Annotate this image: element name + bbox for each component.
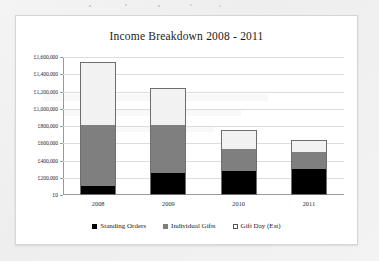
scan-noise	[60, 2, 270, 11]
bar-segment[interactable]	[150, 173, 186, 195]
legend-swatch-icon	[92, 224, 97, 229]
bar-column[interactable]	[150, 88, 186, 195]
bar-segment[interactable]	[291, 152, 327, 169]
legend-label: Gift Day (Est)	[241, 222, 281, 230]
bar-segment[interactable]	[80, 186, 116, 195]
chart-title: Income Breakdown 2008 - 2011	[16, 30, 357, 42]
legend-swatch-icon	[233, 224, 238, 229]
chart-panel: Income Breakdown 2008 - 2011 £0£200,000£…	[15, 15, 358, 245]
bar-column[interactable]	[221, 130, 257, 195]
bar-segment[interactable]	[221, 130, 257, 149]
y-axis-label: £1,200,000	[34, 89, 58, 95]
x-axis-label: 2008	[92, 200, 105, 207]
y-axis-tick	[60, 92, 63, 93]
y-axis-tick	[60, 195, 63, 196]
bar-segment[interactable]	[150, 125, 186, 173]
y-axis-tick	[60, 143, 63, 144]
legend-swatch-icon	[163, 224, 168, 229]
y-axis-label: £1,400,000	[34, 71, 58, 77]
legend-item[interactable]: Gift Day (Est)	[233, 222, 281, 230]
bar-segment[interactable]	[150, 88, 186, 125]
bar-segment[interactable]	[80, 125, 116, 186]
bar-segment[interactable]	[291, 169, 327, 195]
y-axis-label: £800,000	[38, 123, 58, 129]
y-axis-tick	[60, 74, 63, 75]
gridline	[63, 57, 344, 58]
bar-column[interactable]	[291, 140, 327, 195]
y-axis-tick	[60, 178, 63, 179]
y-axis-label: £1,000,000	[34, 106, 58, 112]
y-axis-label: £0	[53, 192, 58, 198]
y-axis-label: £400,000	[38, 158, 58, 164]
x-axis-label: 2011	[303, 200, 315, 207]
y-axis-tick	[60, 161, 63, 162]
y-axis-label: £600,000	[38, 140, 58, 146]
y-axis-tick	[60, 109, 63, 110]
chart-legend: Standing OrdersIndividual GiftsGift Day …	[16, 222, 357, 230]
legend-item[interactable]: Individual Gifts	[163, 222, 216, 230]
bar-column[interactable]	[80, 62, 116, 195]
plot-area: £0£200,000£400,000£600,000£800,000£1,000…	[63, 57, 344, 195]
page-background: Income Breakdown 2008 - 2011 £0£200,000£…	[0, 0, 379, 261]
bar-segment[interactable]	[291, 140, 327, 152]
x-axis-label: 2009	[162, 200, 175, 207]
bar-segment[interactable]	[80, 62, 116, 125]
y-axis-label: £200,000	[38, 175, 58, 181]
bar-segment[interactable]	[221, 149, 257, 171]
y-axis-tick	[60, 57, 63, 58]
x-axis-label: 2010	[232, 200, 245, 207]
y-axis-label: £1,600,000	[34, 54, 58, 60]
y-axis-tick	[60, 126, 63, 127]
bar-segment[interactable]	[221, 171, 257, 195]
legend-label: Standing Orders	[100, 222, 146, 230]
legend-item[interactable]: Standing Orders	[92, 222, 146, 230]
legend-label: Individual Gifts	[171, 222, 216, 230]
